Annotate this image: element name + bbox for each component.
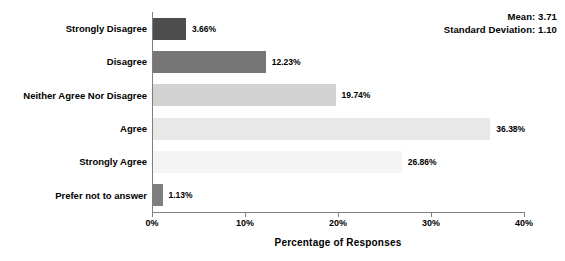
- x-axis-tick-label: 20%: [329, 218, 347, 228]
- category-label: Disagree: [107, 56, 147, 67]
- x-axis-tick: [524, 213, 525, 217]
- plot-area: 3.66% 12.23% 19.74% 36.38% 26.86% 1.13%: [152, 12, 524, 212]
- y-axis-line: [152, 12, 153, 213]
- bar-value-label: 1.13%: [163, 184, 193, 206]
- bar-row: 36.38%: [152, 112, 524, 145]
- bar-row: 3.66%: [152, 12, 524, 45]
- bar-row: 26.86%: [152, 145, 524, 178]
- bar-value-label: 3.66%: [186, 18, 216, 40]
- category-label-row: Prefer not to answer: [0, 179, 147, 212]
- bar: [152, 118, 490, 140]
- x-axis-tick: [338, 213, 339, 217]
- bar-row: 1.13%: [152, 179, 524, 212]
- x-axis-tick-label: 30%: [422, 218, 440, 228]
- category-label-row: Neither Agree Nor Disagree: [0, 79, 147, 112]
- x-axis-tick: [152, 213, 153, 217]
- x-axis-title: Percentage of Responses: [152, 237, 524, 248]
- bar: [152, 51, 266, 73]
- bar-value-label: 26.86%: [402, 151, 437, 173]
- bar: [152, 184, 163, 206]
- bar: [152, 151, 402, 173]
- bar-value-label: 12.23%: [266, 51, 301, 73]
- bar-row: 19.74%: [152, 79, 524, 112]
- bar: [152, 84, 336, 106]
- bar-value-label: 19.74%: [336, 84, 371, 106]
- x-axis-tick: [245, 213, 246, 217]
- x-axis-tick: [431, 213, 432, 217]
- category-label: Agree: [120, 123, 147, 134]
- bar: [152, 18, 186, 40]
- category-label-row: Strongly Disagree: [0, 12, 147, 45]
- category-label: Strongly Disagree: [66, 23, 147, 34]
- category-label-row: Agree: [0, 112, 147, 145]
- x-axis-tick-label: 0%: [145, 218, 158, 228]
- bar-value-label: 36.38%: [490, 118, 525, 140]
- category-label: Prefer not to answer: [55, 190, 147, 201]
- category-label: Neither Agree Nor Disagree: [23, 90, 147, 101]
- bar-row: 12.23%: [152, 45, 524, 78]
- x-axis-tick-label: 10%: [236, 218, 254, 228]
- category-axis-labels: Strongly Disagree Disagree Neither Agree…: [0, 12, 147, 212]
- category-label: Strongly Agree: [79, 156, 147, 167]
- category-label-row: Disagree: [0, 45, 147, 78]
- bar-chart: Mean: 3.71 Standard Deviation: 1.10 Stro…: [0, 0, 565, 261]
- x-axis-tick-label: 40%: [515, 218, 533, 228]
- category-label-row: Strongly Agree: [0, 145, 147, 178]
